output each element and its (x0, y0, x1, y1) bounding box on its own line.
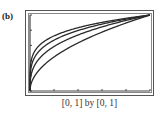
curve-4-root (30, 15, 150, 91)
plot-area (28, 13, 152, 93)
power-function-chart (29, 14, 151, 92)
curve-5-root (30, 15, 150, 91)
viewing-window-caption: [0, 1] by [0, 1] (25, 98, 154, 108)
axes (30, 15, 150, 91)
panel-label: (b) (2, 11, 13, 21)
curve-3-root (30, 15, 150, 91)
curve-2-root (30, 15, 150, 91)
